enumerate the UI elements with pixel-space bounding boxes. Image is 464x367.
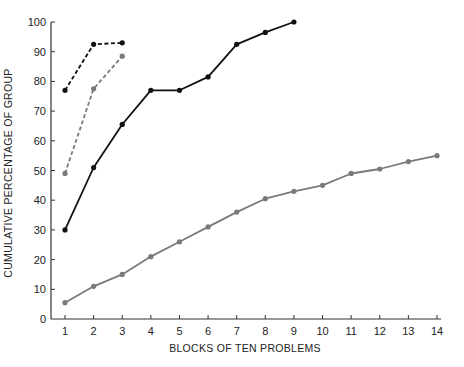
x-axis-ticks: 1234567891011121314 [62,315,443,337]
data-point [177,239,182,244]
data-point [91,284,96,289]
data-point [62,227,67,232]
x-tick-label: 13 [402,325,414,337]
x-tick-label: 3 [119,325,125,337]
y-tick-label: 60 [34,135,46,147]
x-tick-label: 7 [234,325,240,337]
data-point [234,209,239,214]
data-point [263,196,268,201]
data-point [205,74,210,79]
data-point [406,159,411,164]
x-tick-label: 12 [374,325,386,337]
y-tick-label: 90 [34,46,46,58]
data-point [62,300,67,305]
y-axis-label: CUMULATIVE PERCENTAGE OF GROUP [2,68,14,277]
y-tick-label: 20 [34,254,46,266]
y-tick-label: 100 [28,16,46,28]
series-black-dashed [62,40,124,93]
data-point [62,88,67,93]
data-point [120,122,125,127]
data-point [291,19,296,24]
y-tick-label: 70 [34,105,46,117]
data-point [62,171,67,176]
y-tick-label: 0 [40,313,46,325]
series-gray-solid [62,153,439,305]
x-tick-label: 8 [262,325,268,337]
x-tick-label: 4 [148,325,154,337]
data-point [205,224,210,229]
data-point [120,54,125,59]
x-tick-label: 6 [205,325,211,337]
y-tick-label: 10 [34,283,46,295]
axes [51,22,441,319]
x-tick-label: 2 [91,325,97,337]
data-point [263,30,268,35]
data-point [91,86,96,91]
data-point [377,166,382,171]
data-point [234,42,239,47]
y-tick-label: 80 [34,75,46,87]
data-point [148,254,153,259]
x-tick-label: 14 [431,325,443,337]
y-tick-label: 50 [34,165,46,177]
x-tick-label: 10 [316,325,328,337]
data-point [320,183,325,188]
data-point [291,189,296,194]
data-point [91,42,96,47]
line-chart: 0102030405060708090100 12345678910111213… [0,0,464,367]
data-point [120,40,125,45]
data-point [349,171,354,176]
data-point [148,88,153,93]
data-point [434,153,439,158]
x-tick-label: 5 [176,325,182,337]
data-point [91,165,96,170]
data-point [177,88,182,93]
x-tick-label: 1 [62,325,68,337]
x-tick-label: 9 [291,325,297,337]
data-point [120,272,125,277]
y-tick-label: 30 [34,224,46,236]
x-tick-label: 11 [345,325,356,337]
y-tick-label: 40 [34,194,46,206]
data-series [62,19,439,305]
x-axis-label: BLOCKS OF TEN PROBLEMS [169,342,321,354]
series-gray-dashed [62,54,124,177]
